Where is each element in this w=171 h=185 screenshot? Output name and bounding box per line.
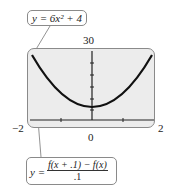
origin-label: 0 xyxy=(88,131,94,143)
function-callout: y = 6x² + 4 xyxy=(27,10,87,26)
fraction-denominator: .1 xyxy=(47,171,108,182)
graph-svg xyxy=(28,49,156,129)
x-min-label: −2 xyxy=(12,122,24,134)
fraction-numerator: f(x + .1) − f(x) xyxy=(47,159,108,171)
fraction: f(x + .1) − f(x) .1 xyxy=(47,159,108,182)
callout-y-equals: y = xyxy=(30,166,45,178)
difference-quotient-callout: y = f(x + .1) − f(x) .1 xyxy=(26,157,117,185)
x-max-label: 2 xyxy=(158,122,164,134)
graph-screen xyxy=(27,48,155,128)
y-max-label: 30 xyxy=(83,34,94,46)
